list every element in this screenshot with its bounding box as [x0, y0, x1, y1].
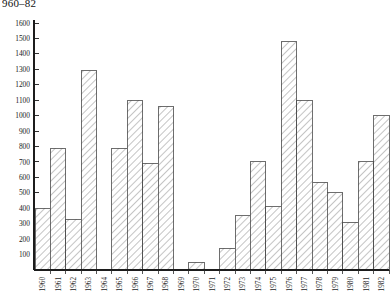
bar — [250, 162, 265, 270]
bar — [312, 182, 327, 270]
bar — [112, 148, 127, 270]
x-tick-label: 1964 — [101, 277, 109, 292]
bar — [266, 207, 281, 270]
bar — [158, 106, 173, 270]
x-tick-label: 1977 — [301, 277, 309, 292]
y-tick-label: 500 — [19, 188, 30, 197]
x-tick-label: 1966 — [132, 277, 140, 292]
y-tick-label: 1100 — [15, 96, 30, 105]
bar — [127, 100, 142, 270]
bar — [343, 222, 358, 270]
bar — [189, 262, 204, 270]
plot-area: 1002003004005006007008009001000110012001… — [0, 12, 392, 293]
x-tick-label: 1971 — [209, 277, 217, 292]
y-tick-label: 600 — [19, 173, 30, 182]
x-tick-label: 1960 — [39, 277, 47, 292]
figure-container: 960–82 100200300400500600700800900100011… — [0, 0, 392, 293]
y-tick-label: 400 — [19, 204, 30, 213]
x-tick-label: 1972 — [224, 277, 232, 292]
x-tick-label: 1973 — [239, 277, 247, 292]
y-tick-label: 900 — [19, 127, 30, 136]
bar — [374, 116, 389, 270]
y-tick-label: 1200 — [15, 80, 30, 89]
bar — [297, 100, 312, 270]
bar — [235, 216, 250, 270]
x-tick-label: 1969 — [178, 277, 186, 292]
y-tick-label: 1000 — [15, 111, 30, 120]
bar — [220, 248, 235, 270]
x-tick-label: 1975 — [270, 277, 278, 292]
y-tick-label: 200 — [19, 235, 30, 244]
x-tick-label: 1979 — [332, 277, 340, 292]
x-tick-label: 1981 — [363, 277, 371, 292]
bar — [81, 71, 96, 270]
y-tick-label: 100 — [19, 250, 30, 259]
x-tick-label: 1970 — [193, 277, 201, 292]
bar — [143, 163, 158, 270]
figure-caption: 960–82 — [2, 0, 122, 10]
x-tick-label: 1980 — [347, 277, 355, 292]
y-tick-label: 700 — [19, 158, 30, 167]
bar — [35, 208, 50, 270]
bar — [281, 42, 296, 270]
y-tick-label: 1600 — [15, 19, 30, 28]
y-tick-label: 300 — [19, 219, 30, 228]
y-tick-label: 1500 — [15, 34, 30, 43]
x-tick-label: 1976 — [286, 277, 294, 292]
bar — [358, 162, 373, 270]
bar — [66, 219, 81, 270]
x-tick-label: 1961 — [55, 277, 63, 292]
x-tick-label: 1982 — [378, 277, 386, 292]
y-tick-label: 1300 — [15, 65, 30, 74]
x-tick-label: 1967 — [147, 277, 155, 292]
x-tick-label: 1963 — [85, 277, 93, 292]
y-tick-label: 1400 — [15, 49, 30, 58]
x-tick-label: 1978 — [316, 277, 324, 292]
bar — [50, 148, 65, 270]
bars-group — [35, 42, 389, 270]
x-axis: 1960196119621963196419651966196719681969… — [34, 270, 389, 291]
bar — [327, 193, 342, 270]
bar-chart: 1002003004005006007008009001000110012001… — [0, 12, 392, 293]
y-tick-label: 800 — [19, 142, 30, 151]
x-tick-label: 1962 — [70, 277, 78, 292]
x-tick-label: 1974 — [255, 277, 263, 292]
x-tick-label: 1968 — [162, 277, 170, 292]
x-tick-label: 1965 — [116, 277, 124, 292]
